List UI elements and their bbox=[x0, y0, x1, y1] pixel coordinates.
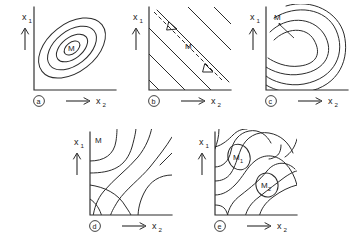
panel-e-x-arrow bbox=[247, 223, 271, 229]
panel-a-y-axis-label: x bbox=[22, 12, 27, 22]
panel-e-axes bbox=[215, 132, 297, 215]
panel-b-x-arrow bbox=[181, 98, 205, 104]
panel-e-tag-text: e bbox=[218, 222, 222, 231]
panel-c-x-axis-subscript: 2 bbox=[335, 101, 339, 108]
panel-d-contours bbox=[90, 127, 172, 219]
panel-c-marker-M: M bbox=[274, 13, 281, 22]
panel-b-tag: b bbox=[149, 96, 160, 107]
panel-e-y-axis-subscript: 1 bbox=[206, 142, 210, 149]
panel-e-x-axis-label: x bbox=[277, 221, 282, 231]
panel-e-tag: e bbox=[215, 221, 226, 232]
panel-d-x-axis-label: x bbox=[152, 221, 157, 231]
panel-b: x 1 M bbox=[123, 2, 235, 114]
panel-c-y-axis-label: x bbox=[250, 12, 255, 22]
panel-b-y-axis-label: x bbox=[133, 12, 138, 22]
panel-a-tag-text: a bbox=[37, 97, 41, 106]
panel-e-y-axis-label: x bbox=[199, 137, 204, 147]
contour-plot-figure: x 1 M a bbox=[0, 0, 350, 246]
panel-a-x-arrow bbox=[66, 98, 90, 104]
panel-d-tag: d bbox=[90, 221, 101, 232]
panel-d-y-arrow bbox=[74, 153, 81, 175]
panel-a-marker-M: M bbox=[68, 44, 75, 53]
panel-b-x-axis-label: x bbox=[211, 96, 216, 106]
panel-e-contours bbox=[215, 129, 297, 217]
panel-a-tag: a bbox=[34, 96, 45, 107]
panel-e: x 1 bbox=[189, 127, 301, 239]
panel-b-marker-M: M bbox=[185, 42, 192, 51]
panel-c-tag: c bbox=[266, 96, 277, 107]
panel-a: x 1 M a bbox=[8, 2, 120, 114]
panel-c-y-arrow bbox=[250, 28, 257, 50]
panel-c-x-axis-label: x bbox=[328, 96, 333, 106]
panel-c-marker-dot bbox=[278, 23, 280, 25]
panel-e-y-arrow bbox=[199, 153, 206, 175]
panel-e-marker-M1: M bbox=[233, 153, 240, 162]
panel-b-tag-text: b bbox=[152, 97, 156, 106]
panel-d-y-axis-label: x bbox=[74, 137, 79, 147]
panel-a-y-axis-subscript: 1 bbox=[29, 17, 33, 24]
panel-c-tag-text: c bbox=[269, 97, 273, 106]
panel-c-x-arrow bbox=[298, 98, 322, 104]
panel-d: x 1 M d bbox=[64, 127, 176, 239]
panel-d-marker-M: M bbox=[95, 136, 102, 145]
panel-d-y-axis-subscript: 1 bbox=[81, 142, 85, 149]
panel-e-marker-M2-subscript: 2 bbox=[268, 186, 271, 192]
panel-c-y-axis-subscript: 1 bbox=[257, 17, 261, 24]
panel-e-marker-M1-subscript: 1 bbox=[240, 158, 243, 164]
panel-e-marker-M2: M bbox=[261, 181, 268, 190]
panel-d-axes bbox=[90, 132, 172, 215]
panel-e-x-axis-subscript: 2 bbox=[284, 226, 288, 233]
panel-b-x-axis-subscript: 2 bbox=[218, 101, 222, 108]
panel-b-y-axis-subscript: 1 bbox=[140, 17, 144, 24]
panel-a-x-axis-subscript: 2 bbox=[103, 101, 107, 108]
panel-d-x-axis-subscript: 2 bbox=[159, 226, 163, 233]
panel-d-x-arrow bbox=[122, 223, 146, 229]
panel-b-y-arrow bbox=[133, 28, 140, 50]
panel-c: x 1 M c bbox=[240, 2, 350, 114]
panel-d-tag-text: d bbox=[93, 222, 97, 231]
panel-a-y-arrow bbox=[22, 28, 29, 50]
panel-a-x-axis-label: x bbox=[96, 96, 101, 106]
